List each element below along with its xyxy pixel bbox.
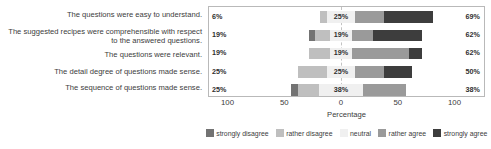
agree-total-label: 38% — [466, 85, 480, 94]
legend-label: strongly disagree — [216, 130, 268, 137]
legend-item[interactable]: rather agree — [378, 129, 426, 137]
category-label: The questions were easy to understand. — [2, 10, 202, 19]
legend-item[interactable]: strongly disagree — [206, 129, 269, 137]
agree-total-label: 62% — [466, 30, 480, 39]
stacked-bar — [309, 48, 423, 60]
category-label: The detail degree of questions made sens… — [2, 67, 202, 76]
x-axis-tick: 50 — [393, 98, 402, 107]
bar-row: 19%19%62% — [209, 26, 484, 44]
bar-segment-neutral — [327, 11, 355, 23]
disagree-total-label: 25% — [212, 67, 226, 76]
bar-segment-strongly-disagree — [291, 84, 298, 96]
bar-row: 25%6%69% — [209, 8, 484, 26]
bar-segment-strongly-agree — [409, 48, 423, 60]
bar-segment-neutral — [319, 84, 362, 96]
bar-row: 25%25%50% — [209, 63, 484, 81]
disagree-total-label: 25% — [212, 85, 226, 94]
disagree-total-label: 19% — [212, 48, 226, 57]
bar-segment-rather-agree — [355, 11, 383, 23]
bar-segment-neutral — [330, 48, 352, 60]
agree-total-label: 62% — [466, 48, 480, 57]
legend-item[interactable]: strongly agree — [433, 129, 487, 137]
bar-segment-strongly-agree — [373, 30, 422, 42]
category-label: The suggested recipes were comprehensibl… — [2, 27, 202, 45]
bar-segment-rather-disagree — [298, 66, 326, 78]
bar-segment-strongly-disagree — [309, 30, 316, 42]
x-axis-tick: 100 — [448, 98, 461, 107]
legend-item[interactable]: rather disagree — [276, 129, 333, 137]
stacked-bar — [298, 66, 412, 78]
bar-segment-strongly-agree — [384, 66, 412, 78]
x-axis-tick: 0 — [339, 98, 343, 107]
bar-segment-rather-agree — [363, 84, 406, 96]
x-axis-title: Percentage — [208, 110, 485, 119]
x-axis-tick: 100 — [221, 98, 234, 107]
legend-swatch-icon — [276, 129, 284, 137]
bar-segment-strongly-agree — [384, 11, 434, 23]
bar-segment-rather-disagree — [298, 84, 320, 96]
disagree-total-label: 6% — [212, 12, 222, 21]
legend-swatch-icon — [206, 129, 214, 137]
agree-total-label: 50% — [466, 67, 480, 76]
x-axis-tick: 50 — [280, 98, 289, 107]
likert-chart: The questions were easy to understand.Th… — [0, 0, 491, 149]
category-label: The sequence of questions made sense. — [2, 83, 202, 92]
bar-segment-rather-disagree — [320, 11, 327, 23]
category-axis-labels: The questions were easy to understand.Th… — [0, 0, 206, 96]
x-axis: 10050050100 — [208, 98, 485, 110]
bar-segment-neutral — [330, 30, 352, 42]
bar-segment-rather-disagree — [309, 48, 331, 60]
disagree-total-label: 19% — [212, 30, 226, 39]
agree-total-label: 69% — [466, 12, 480, 21]
bar-segment-rather-agree — [355, 66, 383, 78]
category-label: The questions were relevant. — [2, 50, 202, 59]
bar-segment-rather-disagree — [315, 30, 330, 42]
stacked-bar — [320, 11, 434, 23]
legend-label: rather disagree — [286, 130, 332, 137]
bar-row: 19%19%62% — [209, 44, 484, 62]
legend-item[interactable]: neutral — [340, 129, 372, 137]
legend-swatch-icon — [340, 129, 348, 137]
stacked-bar — [309, 30, 423, 42]
legend-swatch-icon — [378, 129, 386, 137]
bar-segment-rather-agree — [352, 30, 374, 42]
legend-label: neutral — [350, 130, 371, 137]
legend-swatch-icon — [433, 129, 441, 137]
legend-label: rather agree — [389, 130, 427, 137]
legend-label: strongly agree — [444, 130, 488, 137]
chart-legend: strongly disagreerather disagreeneutralr… — [208, 126, 485, 140]
bar-segment-rather-agree — [352, 48, 409, 60]
bar-segment-neutral — [327, 66, 355, 78]
stacked-bar — [291, 84, 406, 96]
plot-panel: 25%6%69%19%19%62%19%19%62%25%25%50%38%25… — [208, 6, 485, 97]
bar-row: 38%25%38% — [209, 81, 484, 99]
